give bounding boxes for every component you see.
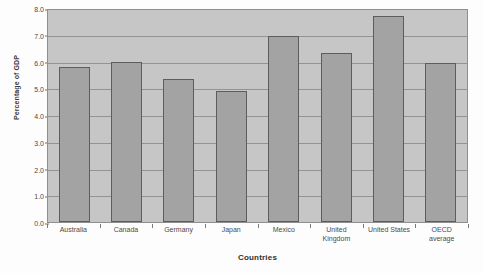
bar — [373, 16, 404, 222]
x-axis-tick-label: OECDaverage — [415, 226, 468, 243]
x-axis-tick-mark — [363, 224, 364, 228]
x-axis-tick-mark — [47, 224, 48, 228]
plot-area — [47, 9, 468, 223]
x-axis-tick-label: Mexico — [258, 226, 311, 243]
bar — [425, 63, 456, 222]
bar-slot — [205, 10, 257, 222]
bar-slot — [48, 10, 100, 222]
x-axis-tick-label-line: OECD — [415, 226, 468, 235]
x-axis-tick-mark — [205, 224, 206, 228]
x-axis-tick-mark — [152, 224, 153, 228]
bar-slot — [310, 10, 362, 222]
x-axis-tick-label-line: Mexico — [258, 226, 311, 235]
bar — [163, 79, 194, 222]
x-axis-tick-label: Germany — [152, 226, 205, 243]
x-axis-tick-mark — [415, 224, 416, 228]
y-axis-tick-label: 1.0 — [34, 193, 44, 200]
x-axis-tick-label: UnitedKingdom — [310, 226, 363, 243]
x-axis-tick-label-line: Kingdom — [310, 235, 363, 244]
x-axis-tick-label: United States — [363, 226, 416, 243]
x-axis-tick-label: Australia — [47, 226, 100, 243]
bar-slot — [153, 10, 205, 222]
x-axis-tick-mark — [468, 224, 469, 228]
x-axis-tick-mark — [258, 224, 259, 228]
bar — [321, 53, 352, 222]
y-axis-tick-label: 2.0 — [34, 166, 44, 173]
bar-slot — [415, 10, 467, 222]
x-axis-tick-label-line: United States — [363, 226, 416, 235]
x-axis-tick-label-line: Japan — [205, 226, 258, 235]
bar-series — [48, 10, 467, 222]
y-axis-tick-label: 0.0 — [34, 220, 44, 227]
y-axis-tick-label: 7.0 — [34, 32, 44, 39]
bar-slot — [258, 10, 310, 222]
x-axis-tick-label-line: average — [415, 235, 468, 244]
x-axis-tick-labels: AustraliaCanadaGermanyJapanMexicoUnitedK… — [47, 226, 468, 243]
x-axis-tick-label-line: Australia — [47, 226, 100, 235]
bar-chart: Percentage of GDP 0.01.02.03.04.05.06.07… — [0, 0, 483, 273]
x-axis-tick-label-line: Germany — [152, 226, 205, 235]
y-axis-tick-label: 3.0 — [34, 139, 44, 146]
y-axis-tick-label: 4.0 — [34, 113, 44, 120]
y-axis-tick-labels: 0.01.02.03.04.05.06.07.08.0 — [18, 0, 44, 273]
bar — [268, 36, 299, 222]
x-axis-tick-label: Japan — [205, 226, 258, 243]
bar-slot — [100, 10, 152, 222]
x-axis-title: Countries — [47, 253, 468, 262]
bar — [216, 91, 247, 222]
x-axis-tick-mark — [310, 224, 311, 228]
y-axis-tick-label: 8.0 — [34, 6, 44, 13]
bar-slot — [362, 10, 414, 222]
y-axis-tick-label: 6.0 — [34, 59, 44, 66]
x-axis-tick-label: Canada — [100, 226, 153, 243]
x-axis-tick-label-line: United — [310, 226, 363, 235]
x-axis-tick-label-line: Canada — [100, 226, 153, 235]
x-axis-tick-mark — [100, 224, 101, 228]
bar — [59, 67, 90, 222]
bar — [111, 62, 142, 223]
y-axis-tick-label: 5.0 — [34, 86, 44, 93]
